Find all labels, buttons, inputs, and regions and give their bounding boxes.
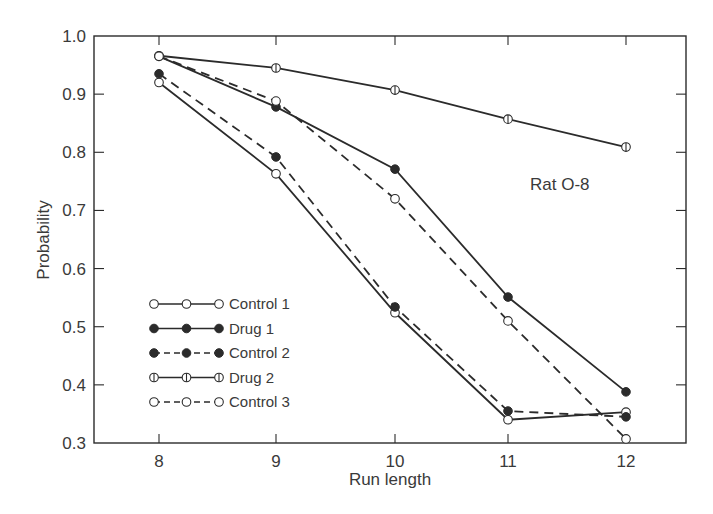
y-axis-ticks: 1.00.90.80.70.60.50.40.3	[62, 27, 686, 453]
x-axis-ticks: 89101112	[154, 36, 635, 471]
legend-item: Control 2	[150, 344, 290, 361]
x-tick-label: 9	[271, 452, 280, 471]
x-axis-label: Run length	[349, 470, 431, 489]
x-tick-label: 8	[154, 452, 163, 471]
x-tick-label: 10	[386, 452, 405, 471]
line-chart: 89101112 1.00.90.80.70.60.50.40.3 Run le…	[0, 0, 713, 514]
y-tick-label: 0.7	[62, 201, 86, 220]
y-tick-label: 0.3	[62, 434, 86, 453]
x-tick-label: 11	[499, 452, 517, 471]
legend: Control 1Drug 1Control 2Drug 2Control 3	[150, 295, 290, 410]
chart-annotation: Rat O-8	[530, 175, 590, 194]
series-lines	[155, 51, 631, 443]
x-tick-label: 12	[617, 452, 636, 471]
legend-label: Drug 1	[229, 320, 274, 337]
y-tick-label: 0.5	[62, 318, 86, 337]
y-tick-label: 1.0	[62, 27, 86, 46]
legend-label: Control 1	[229, 295, 290, 312]
legend-item: Drug 2	[150, 369, 274, 386]
plot-frame	[94, 36, 686, 443]
legend-item: Control 3	[150, 393, 290, 410]
series-control-2	[155, 69, 631, 421]
y-tick-label: 0.8	[62, 143, 86, 162]
legend-label: Control 2	[229, 344, 290, 361]
series-drug-1	[155, 52, 631, 396]
y-tick-label: 0.6	[62, 260, 86, 279]
legend-item: Drug 1	[150, 320, 274, 337]
y-axis-label: Probability	[34, 200, 53, 280]
legend-label: Control 3	[229, 393, 290, 410]
series-drug-2	[155, 51, 631, 151]
legend-label: Drug 2	[229, 369, 274, 386]
y-tick-label: 0.9	[62, 85, 86, 104]
y-tick-label: 0.4	[62, 376, 86, 395]
series-control-3	[155, 52, 631, 443]
legend-item: Control 1	[150, 295, 290, 312]
